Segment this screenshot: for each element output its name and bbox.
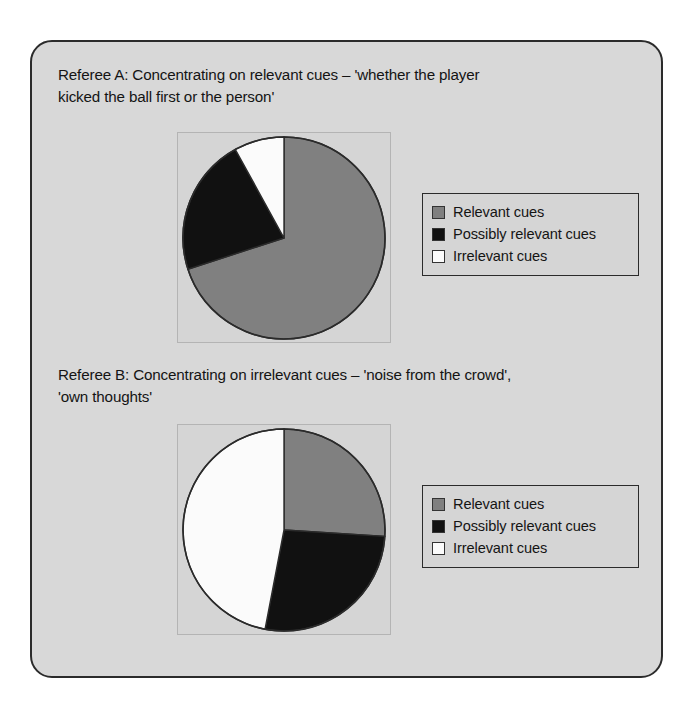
chart-caption-referee-b: Referee B: Concentrating on irrelevant c… xyxy=(58,364,618,407)
pie-chart-referee-a xyxy=(181,135,387,341)
legend-item-relevant-cues: Relevant cues xyxy=(432,201,628,223)
legend-item-label: Possibly relevant cues xyxy=(453,518,596,534)
chart-referee-b: Relevant cues Possibly relevant cues Irr… xyxy=(32,424,665,639)
pie-chart-referee-b xyxy=(181,427,387,633)
chart-caption-referee-a: Referee A: Concentrating on relevant cue… xyxy=(58,64,618,107)
legend-referee-b: Relevant cues Possibly relevant cues Irr… xyxy=(422,485,639,568)
legend-item-relevant-cues: Relevant cues xyxy=(432,493,628,515)
legend-item-irrelevant-cues: Irrelevant cues xyxy=(432,537,628,559)
legend-item-label: Irrelevant cues xyxy=(453,540,547,556)
irrelevant-cues-swatch xyxy=(432,542,445,555)
pie-slice xyxy=(284,429,385,536)
legend-item-label: Possibly relevant cues xyxy=(453,226,596,242)
relevant-cues-swatch xyxy=(432,206,445,219)
legend-item-label: Relevant cues xyxy=(453,496,544,512)
legend-item-possibly-relevant-cues: Possibly relevant cues xyxy=(432,515,628,537)
relevant-cues-swatch xyxy=(432,498,445,511)
irrelevant-cues-swatch xyxy=(432,250,445,263)
pie-slice xyxy=(183,429,284,629)
legend-item-possibly-relevant-cues: Possibly relevant cues xyxy=(432,223,628,245)
possibly-relevant-cues-swatch xyxy=(432,228,445,241)
figure-panel: Referee A: Concentrating on relevant cue… xyxy=(30,40,663,678)
legend-referee-a: Relevant cues Possibly relevant cues Irr… xyxy=(422,193,639,276)
chart-referee-a: Relevant cues Possibly relevant cues Irr… xyxy=(32,132,665,347)
pie-slice xyxy=(265,530,385,631)
legend-item-label: Irrelevant cues xyxy=(453,248,547,264)
legend-item-irrelevant-cues: Irrelevant cues xyxy=(432,245,628,267)
possibly-relevant-cues-swatch xyxy=(432,520,445,533)
legend-item-label: Relevant cues xyxy=(453,204,544,220)
plot-area-referee-b xyxy=(177,424,391,635)
plot-area-referee-a xyxy=(177,132,391,343)
